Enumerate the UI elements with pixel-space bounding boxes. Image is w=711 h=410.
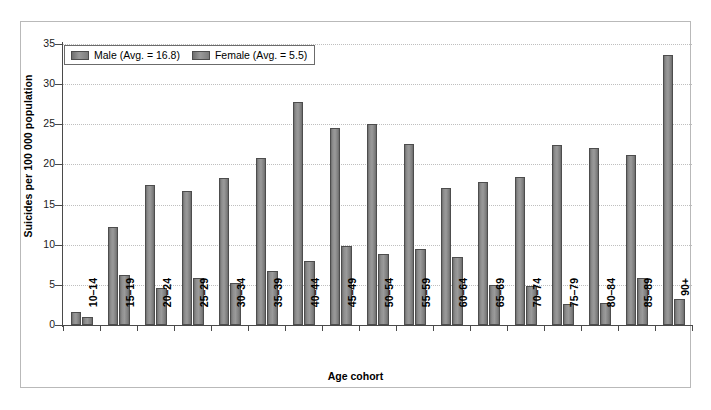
x-axis-tick-label: 25–29 <box>198 278 210 334</box>
x-axis-tick <box>581 325 582 331</box>
x-axis-tick <box>507 325 508 331</box>
bar-male-80-84 <box>589 148 600 325</box>
x-axis-tick-label: 50–54 <box>383 278 395 334</box>
x-axis-title: Age cohort <box>0 370 711 382</box>
bar-male-55-59 <box>404 144 415 325</box>
y-axis-title: Suicides per 100 000 population <box>22 56 34 256</box>
bar-male-35-39 <box>256 158 267 325</box>
bar-male-90+ <box>663 55 674 325</box>
x-axis-tick-label: 20–24 <box>161 278 173 334</box>
bar-male-50-54 <box>367 124 378 325</box>
legend-label-female: Female (Avg. = 5.5) <box>215 49 307 61</box>
x-axis-tick <box>63 325 64 331</box>
y-axis-tick-label: 35 <box>15 38 55 48</box>
x-axis-tick <box>359 325 360 331</box>
x-axis-tick <box>692 325 693 331</box>
y-axis-tick <box>55 84 63 85</box>
legend-swatch-female <box>192 51 210 60</box>
legend-swatch-male <box>71 51 89 60</box>
chart-legend: Male (Avg. = 16.8) Female (Avg. = 5.5) <box>64 45 315 65</box>
y-axis-tick-label: 25 <box>15 118 55 128</box>
x-axis-line <box>62 325 692 326</box>
bar-male-25-29 <box>182 191 193 325</box>
x-axis-tick-label: 55–59 <box>420 278 432 334</box>
y-axis-tick-label: 10 <box>15 239 55 249</box>
y-axis-tick-label: 30 <box>15 78 55 88</box>
x-axis-tick-label: 45–49 <box>346 278 358 334</box>
y-axis-tick <box>55 164 63 165</box>
gridline <box>63 84 692 85</box>
x-axis-tick-label: 15–19 <box>124 278 136 334</box>
bar-male-30-34 <box>219 178 230 325</box>
x-axis-tick-label: 75–79 <box>568 278 580 334</box>
x-axis-tick <box>285 325 286 331</box>
x-axis-tick <box>655 325 656 331</box>
x-axis-tick-label: 80–84 <box>605 278 617 334</box>
x-axis-tick-label: 65–69 <box>494 278 506 334</box>
y-axis-tick-label: 0 <box>15 319 55 329</box>
x-axis-tick-label: 90+ <box>679 278 691 334</box>
y-axis-tick-label: 20 <box>15 158 55 168</box>
x-axis-tick-label: 60–64 <box>457 278 469 334</box>
x-axis-tick <box>544 325 545 331</box>
bar-male-40-44 <box>293 102 304 325</box>
legend-item-female: Female (Avg. = 5.5) <box>192 49 307 61</box>
y-axis-tick <box>55 124 63 125</box>
bar-male-45-49 <box>330 128 341 326</box>
y-axis-tick-label: 15 <box>15 199 55 209</box>
y-axis-tick-label: 5 <box>15 279 55 289</box>
x-axis-tick <box>174 325 175 331</box>
y-axis-tick <box>55 325 63 326</box>
bar-male-65-69 <box>478 182 489 325</box>
x-axis-tick <box>618 325 619 331</box>
x-axis-tick-label: 40–44 <box>309 278 321 334</box>
legend-item-male: Male (Avg. = 16.8) <box>71 49 180 61</box>
x-axis-tick-label: 30–34 <box>235 278 247 334</box>
x-axis-tick <box>137 325 138 331</box>
x-axis-tick <box>211 325 212 331</box>
x-axis-tick <box>433 325 434 331</box>
x-axis-tick <box>396 325 397 331</box>
bar-male-60-64 <box>441 188 452 325</box>
x-axis-tick <box>248 325 249 331</box>
bar-male-75-79 <box>552 145 563 325</box>
x-axis-tick <box>470 325 471 331</box>
x-axis-tick-label: 85–89 <box>642 278 654 334</box>
bar-male-20-24 <box>145 185 156 326</box>
x-axis-tick-label: 10–14 <box>87 278 99 334</box>
bar-male-70-74 <box>515 177 526 325</box>
bar-male-10-14 <box>71 312 82 325</box>
y-axis-tick <box>55 245 63 246</box>
plot-inner <box>63 44 692 325</box>
y-axis-tick <box>55 205 63 206</box>
x-axis-tick <box>322 325 323 331</box>
gridline <box>63 124 692 125</box>
legend-label-male: Male (Avg. = 16.8) <box>94 49 180 61</box>
bar-male-15-19 <box>108 227 119 325</box>
bar-male-85-89 <box>626 155 637 325</box>
x-axis-tick-label: 35–39 <box>272 278 284 334</box>
plot-area <box>63 44 692 325</box>
y-axis-tick <box>55 285 63 286</box>
x-axis-tick <box>100 325 101 331</box>
chart-screenshot: 05101520253035 Suicides per 100 000 popu… <box>0 0 711 410</box>
x-axis-tick-label: 70–74 <box>531 278 543 334</box>
y-axis-tick <box>55 44 63 45</box>
